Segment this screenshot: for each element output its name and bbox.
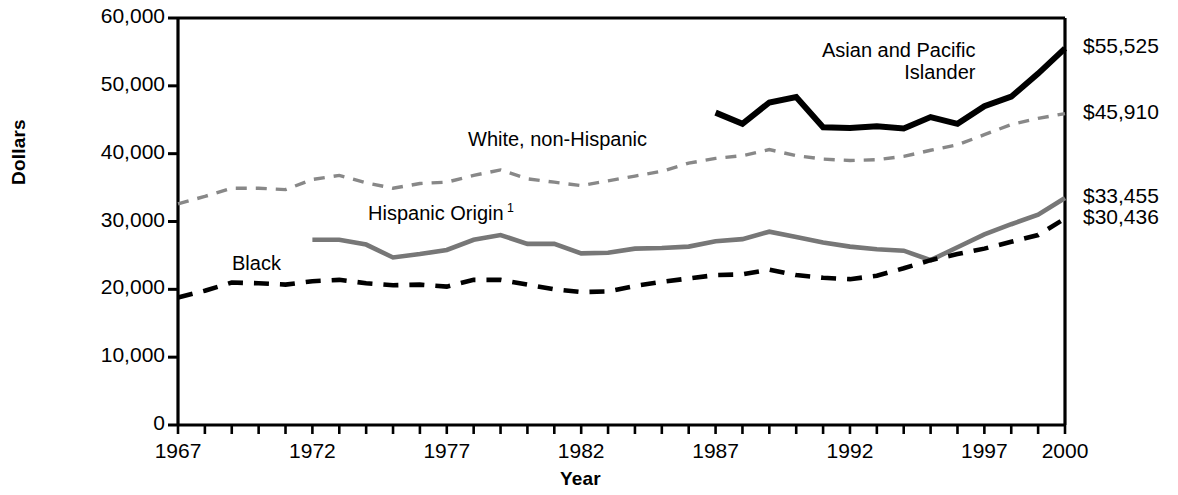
y-tick-label-4: 40,000: [30, 140, 165, 164]
end-value-label-3: $30,436: [1083, 205, 1159, 229]
y-tick-label-0: 0: [30, 411, 165, 435]
x-tick-label-2: 1977: [392, 439, 502, 463]
series-label-line1: Asian and Pacific: [822, 40, 975, 62]
series-label-0: Asian and PacificIslander: [822, 40, 975, 83]
series-line-3: [178, 219, 1065, 298]
x-axis-title: Year: [560, 468, 601, 490]
series-label-1: White, non-Hispanic: [468, 128, 647, 151]
x-tick-label-3: 1982: [526, 439, 636, 463]
x-tick-label-7: 2000: [1010, 439, 1120, 463]
series-label-footnote: 1: [504, 201, 514, 215]
x-tick-label-5: 1992: [795, 439, 905, 463]
end-value-label-0: $55,525: [1083, 34, 1159, 58]
y-tick-label-2: 20,000: [30, 275, 165, 299]
y-tick-label-6: 60,000: [30, 4, 165, 28]
series-label-line2: Islander: [822, 62, 975, 84]
y-tick-label-5: 50,000: [30, 72, 165, 96]
end-value-label-1: $45,910: [1083, 100, 1159, 124]
x-tick-label-4: 1987: [661, 439, 771, 463]
plot-area: [0, 0, 1178, 495]
x-tick-label-0: 1967: [123, 439, 233, 463]
series-label-3: Black: [232, 252, 281, 275]
income-by-race-line-chart: Dollars Year 010,00020,00030,00040,00050…: [0, 0, 1178, 495]
y-tick-label-1: 10,000: [30, 343, 165, 367]
x-tick-label-1: 1972: [257, 439, 367, 463]
series-label-2: Hispanic Origin 1: [368, 201, 514, 225]
y-axis-title: Dollars: [8, 119, 30, 185]
y-tick-label-3: 30,000: [30, 208, 165, 232]
